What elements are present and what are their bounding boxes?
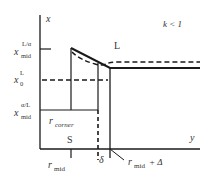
- svg-text:L/α: L/α: [22, 40, 32, 47]
- svg-text:corner: corner: [55, 121, 74, 129]
- svg-text:L: L: [20, 69, 24, 76]
- ytick-x0-L: x 0 L: [13, 69, 24, 87]
- ytick-xmid-L-alpha: x mid L/α: [13, 40, 32, 59]
- svg-text:mid: mid: [54, 165, 65, 173]
- phase-diagram: x y k < 1 L S x mid L/α x 0 L x mid α/L …: [0, 0, 211, 182]
- svg-text:mid: mid: [21, 113, 32, 120]
- region-label-S: S: [67, 134, 73, 145]
- vertical-axis-label: x: [45, 13, 51, 24]
- svg-text:x: x: [13, 46, 19, 57]
- solid-boundary: [71, 48, 200, 68]
- svg-text:r: r: [128, 156, 132, 167]
- svg-text:r: r: [49, 115, 53, 126]
- svg-text:mid: mid: [21, 52, 32, 59]
- xtick-delta: δ: [99, 154, 104, 165]
- region-label-L: L: [114, 40, 120, 51]
- svg-text:x: x: [13, 74, 19, 85]
- xtick-rmid: r mid: [48, 159, 65, 173]
- svg-text:+ Δ: + Δ: [149, 157, 162, 167]
- svg-text:mid: mid: [134, 162, 145, 170]
- svg-text:δ: δ: [99, 154, 104, 165]
- svg-text:r: r: [48, 159, 52, 170]
- leader-rmid-delta: [110, 149, 124, 160]
- svg-text:x: x: [13, 107, 19, 118]
- xtick-rmid-plus-delta: r mid + Δ: [128, 156, 162, 170]
- condition-label: k < 1: [163, 19, 182, 29]
- horizontal-axis-label: y: [189, 132, 195, 143]
- svg-text:0: 0: [20, 80, 23, 87]
- rcorner-label: r corner: [49, 115, 74, 129]
- ytick-xmid-alpha-L: x mid α/L: [13, 101, 32, 120]
- svg-text:α/L: α/L: [21, 101, 30, 108]
